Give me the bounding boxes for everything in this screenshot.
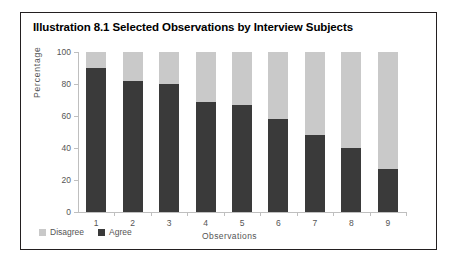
bar-segment-agree[interactable] <box>159 84 179 212</box>
bar-group[interactable] <box>378 52 398 212</box>
bar-segment-agree[interactable] <box>86 68 106 212</box>
y-tick-mark <box>74 180 78 181</box>
bar-segment-disagree[interactable] <box>305 52 325 135</box>
bar-segment-agree[interactable] <box>378 169 398 212</box>
bar-segment-disagree[interactable] <box>341 52 361 148</box>
bar-group[interactable] <box>86 52 106 212</box>
x-tick-mark <box>224 212 225 216</box>
x-tick-mark <box>297 212 298 216</box>
y-axis-label: Percentage <box>32 47 42 98</box>
bar-segment-disagree[interactable] <box>159 52 179 84</box>
bar-group[interactable] <box>159 52 179 212</box>
plot-area: 020406080100 123456789 <box>78 52 406 212</box>
x-tick-label: 4 <box>203 218 208 228</box>
bar-segment-agree[interactable] <box>341 148 361 212</box>
x-tick-label: 6 <box>276 218 281 228</box>
x-axis-line <box>78 212 406 213</box>
legend-item[interactable]: Agree <box>98 227 132 237</box>
bar-segment-disagree[interactable] <box>268 52 288 119</box>
x-tick-mark <box>260 212 261 216</box>
legend-label: Disagree <box>50 227 84 237</box>
x-tick-mark <box>114 212 115 216</box>
x-tick-mark <box>187 212 188 216</box>
bar-group[interactable] <box>341 52 361 212</box>
y-tick-mark <box>74 212 78 213</box>
x-tick-mark <box>333 212 334 216</box>
legend-swatch-disagree <box>39 229 46 236</box>
bar-segment-disagree[interactable] <box>378 52 398 169</box>
bar-group[interactable] <box>123 52 143 212</box>
chart-legend: DisagreeAgree <box>39 227 132 237</box>
x-tick-mark <box>151 212 152 216</box>
bar-segment-agree[interactable] <box>196 102 216 212</box>
chart-title: Illustration 8.1 Selected Observations b… <box>33 21 353 33</box>
y-tick-mark <box>74 52 78 53</box>
bar-segment-agree[interactable] <box>123 81 143 212</box>
legend-item[interactable]: Disagree <box>39 227 84 237</box>
bar-group[interactable] <box>196 52 216 212</box>
y-tick-label: 40 <box>62 143 71 153</box>
x-tick-label: 8 <box>349 218 354 228</box>
y-tick-mark <box>74 148 78 149</box>
bar-segment-disagree[interactable] <box>86 52 106 68</box>
bar-segment-agree[interactable] <box>232 105 252 212</box>
y-tick-mark <box>74 116 78 117</box>
bar-group[interactable] <box>232 52 252 212</box>
x-tick-label: 5 <box>240 218 245 228</box>
bar-segment-agree[interactable] <box>305 135 325 212</box>
y-tick-mark <box>74 84 78 85</box>
legend-swatch-agree <box>98 229 105 236</box>
chart-figure: Illustration 8.1 Selected Observations b… <box>20 12 437 250</box>
x-tick-label: 7 <box>313 218 318 228</box>
y-axis-line <box>78 52 79 213</box>
y-tick-label: 0 <box>66 207 71 217</box>
bar-segment-disagree[interactable] <box>196 52 216 102</box>
bar-segment-agree[interactable] <box>268 119 288 212</box>
bar-segment-disagree[interactable] <box>123 52 143 81</box>
y-tick-label: 100 <box>57 47 71 57</box>
x-tick-mark <box>406 212 407 216</box>
x-tick-label: 3 <box>167 218 172 228</box>
legend-label: Agree <box>109 227 132 237</box>
bar-group[interactable] <box>268 52 288 212</box>
bar-group[interactable] <box>305 52 325 212</box>
y-tick-label: 80 <box>62 79 71 89</box>
bar-segment-disagree[interactable] <box>232 52 252 105</box>
y-tick-label: 20 <box>62 175 71 185</box>
y-tick-label: 60 <box>62 111 71 121</box>
x-tick-mark <box>370 212 371 216</box>
x-tick-label: 9 <box>385 218 390 228</box>
